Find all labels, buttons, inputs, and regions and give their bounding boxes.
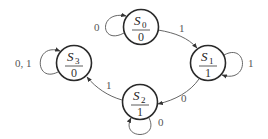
state-name: S <box>133 88 140 103</box>
transition-s1-s2: 0 <box>158 79 199 104</box>
edge-arrow-s2-s3 <box>87 77 122 100</box>
transition-label: 0 <box>94 21 100 33</box>
transition-s3-s3: 0, 1 <box>15 50 60 74</box>
state-output: 0 <box>71 66 77 80</box>
state-output: 1 <box>137 105 143 119</box>
transition-s0-s1: 1 <box>158 22 197 48</box>
state-name: S <box>134 13 141 28</box>
self-loop-arrow-s2 <box>129 118 151 135</box>
edge-arrow-s0-s1 <box>158 30 197 48</box>
transition-label: 1 <box>106 79 112 91</box>
transition-label: 1 <box>248 57 254 69</box>
edge-arrow-s1-s2 <box>158 79 199 104</box>
transition-label: 1 <box>179 22 185 34</box>
transition-s1-s1: 1 <box>222 52 254 76</box>
state-name: S <box>67 49 74 64</box>
state-diagram: 0 1 1 0 0 1 0, 1 S 0 0 S 1 <box>0 0 268 139</box>
transition-label: 0, 1 <box>15 57 32 69</box>
state-subscript: 3 <box>75 56 80 66</box>
state-subscript: 1 <box>209 56 214 66</box>
state-s3: S 3 0 <box>57 46 92 81</box>
state-name: S <box>201 49 208 64</box>
state-subscript: 2 <box>141 95 146 105</box>
transition-label: 0 <box>158 116 164 128</box>
state-s2: S 2 1 <box>123 85 158 120</box>
transition-label: 0 <box>181 92 187 104</box>
transition-s0-s0: 0 <box>94 15 126 36</box>
state-s0: S 0 0 <box>124 10 159 45</box>
state-output: 0 <box>138 30 144 44</box>
state-s1: S 1 1 <box>191 46 226 81</box>
transition-s2-s3: 1 <box>87 77 122 100</box>
state-subscript: 0 <box>142 20 147 30</box>
state-output: 1 <box>205 66 211 80</box>
